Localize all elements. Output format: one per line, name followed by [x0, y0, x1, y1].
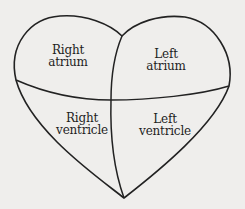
label-right-ventricle: Right ventricle: [50, 112, 114, 136]
label-left-ventricle: Left ventricle: [133, 113, 197, 137]
heart-diagram: Right atrium Left atrium Right ventricle…: [0, 0, 245, 209]
heart-outline: [0, 0, 245, 209]
label-right-ventricle-line2: ventricle: [50, 124, 114, 136]
horizontal-septum-line: [16, 80, 229, 100]
label-left-atrium-line2: atrium: [140, 60, 192, 72]
label-right-atrium-line2: atrium: [42, 56, 94, 68]
label-left-atrium: Left atrium: [140, 48, 192, 72]
label-right-atrium: Right atrium: [42, 44, 94, 68]
label-left-ventricle-line2: ventricle: [133, 125, 197, 137]
